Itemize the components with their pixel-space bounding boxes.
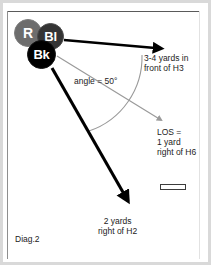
annotation-angle: angle = 50° — [74, 77, 117, 87]
annotation-bottom-route: 2 yards right of H2 — [98, 217, 137, 237]
annotation-top-route: 3-4 yards in front of H3 — [144, 54, 188, 74]
bottom-route-arrow — [52, 68, 128, 201]
ball-marker — [160, 184, 186, 190]
top-route-arrow — [64, 40, 161, 49]
player-marker-bk[interactable]: Bk — [27, 40, 56, 69]
player-label-bk: Bk — [33, 47, 49, 62]
annotation-los: LOS = 1 yard right of H6 — [157, 128, 196, 157]
diagram-caption: Diag.2 — [15, 235, 40, 245]
angle-arc — [89, 55, 142, 131]
diagram-screenshot: R Bl Bk 3-4 yards in front of H3 angle =… — [0, 0, 211, 265]
player-label-r: R — [23, 25, 33, 41]
